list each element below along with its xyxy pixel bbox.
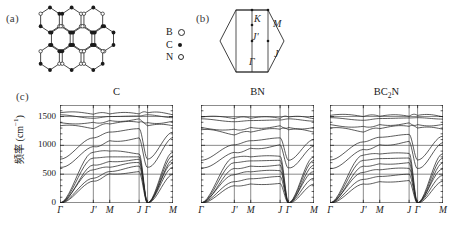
lattice-atom-c <box>39 24 43 28</box>
legend-item-b: B <box>166 26 185 39</box>
phonon-branch <box>330 123 443 127</box>
plot-title-BN: BN <box>201 86 314 97</box>
figure-root: (a) B C N (b) KMJ'JΓ (c) <box>0 0 449 230</box>
bz-point-label-0: K <box>254 13 261 24</box>
nitrogen-open-circle-icon <box>178 54 184 60</box>
x-tick-label-4: Γ <box>409 205 427 215</box>
plot-title-C: C <box>60 86 173 97</box>
phonon-plot-BC2N <box>330 105 443 203</box>
phonon-branch <box>330 118 443 121</box>
lattice-atom-c <box>71 31 75 35</box>
phonon-branch <box>60 163 173 203</box>
x-tick-label-2: M <box>242 205 260 215</box>
lattice-atom-n <box>61 62 64 65</box>
lattice-atom-n <box>39 50 42 53</box>
lattice-atom-c <box>112 31 116 35</box>
phonon-branch <box>201 165 314 203</box>
legend-item-c: C <box>166 39 185 52</box>
lattice-atom-n <box>39 12 42 15</box>
atom-species-legend: B C N <box>166 26 185 64</box>
x-tick-label-5: M <box>164 205 182 215</box>
phonon-plot-C <box>60 105 173 203</box>
x-tick-label-2: M <box>101 205 119 215</box>
bz-point-label-4: Γ <box>249 56 255 67</box>
phonon-plot-BN <box>201 105 314 203</box>
phonon-branch <box>330 163 443 203</box>
lattice-atom-c <box>48 6 52 10</box>
bz-point-label-2: J' <box>252 31 259 42</box>
x-tick-label-0: Γ <box>321 205 339 215</box>
lattice-atom-c <box>91 43 95 47</box>
x-tick-label-0: Γ <box>192 205 210 215</box>
legend-label-b: B <box>166 26 177 39</box>
bz-point-label-3: J <box>274 48 278 59</box>
lattice-atom-c <box>60 12 64 16</box>
x-tick-label-5: M <box>434 205 449 215</box>
lattice-atom-n <box>82 62 85 65</box>
lattice-atom-c <box>112 43 116 47</box>
lattice-atom-c <box>91 68 95 72</box>
x-tick-label-1: J' <box>84 205 102 215</box>
lattice-atom-c <box>60 49 64 53</box>
lattice-atom-c <box>93 31 97 35</box>
legend-label-c: C <box>166 39 177 52</box>
legend-item-n: N <box>166 51 185 64</box>
lattice-atom-c <box>39 62 43 66</box>
lattice-atom-c <box>102 24 106 28</box>
lattice-atom-n <box>82 50 85 53</box>
x-tick-label-4: Γ <box>139 205 157 215</box>
lattice-atom-c <box>48 68 52 72</box>
lattice-atom-c <box>101 62 105 66</box>
brillouin-zone-diagram: KMJ'JΓ <box>216 4 292 84</box>
y-tick-label-500: 500 <box>18 168 56 178</box>
lattice-atom-n <box>101 12 104 15</box>
lattice-atom-c <box>91 6 95 10</box>
y-tick-label-1500: 1500 <box>18 111 56 121</box>
phonon-branch <box>60 121 173 128</box>
lattice-atom-c <box>50 31 54 35</box>
phonon-branch <box>60 129 173 160</box>
bc2n-lattice-diagram <box>32 4 162 86</box>
phonon-dispersion-group: 频率 (cm−1) C050010001500ΓJ'MJΓMBNΓJ'MJΓMB… <box>0 86 449 230</box>
legend-label-n: N <box>166 51 177 64</box>
x-tick-label-4: Γ <box>280 205 298 215</box>
x-tick-label-0: Γ <box>51 205 69 215</box>
y-tick-label-1000: 1000 <box>18 139 56 149</box>
boron-open-circle-icon <box>178 29 185 36</box>
lattice-atom-n <box>81 25 84 28</box>
phonon-branch <box>60 112 173 115</box>
phonon-branch <box>330 125 443 132</box>
panel-b-label: (b) <box>196 12 209 24</box>
lattice-atom-c <box>70 68 74 72</box>
phonon-branch <box>201 119 314 122</box>
lattice-atom-n <box>59 25 62 28</box>
phonon-branch <box>330 134 443 160</box>
lattice-atom-c <box>48 43 52 47</box>
panel-a-label: (a) <box>6 12 19 24</box>
plot-title-BC2N: BC2N <box>330 86 443 100</box>
x-tick-label-1: J' <box>225 205 243 215</box>
x-tick-label-1: J' <box>354 205 372 215</box>
lattice-atom-c <box>70 6 74 10</box>
carbon-filled-circle-icon <box>178 43 182 47</box>
lattice-atom-c <box>70 43 74 47</box>
bz-point-label-1: M <box>273 18 281 29</box>
lattice-atom-n <box>82 12 85 15</box>
x-tick-label-2: M <box>371 205 389 215</box>
lattice-atom-n <box>101 50 104 53</box>
phonon-branch <box>201 156 314 203</box>
